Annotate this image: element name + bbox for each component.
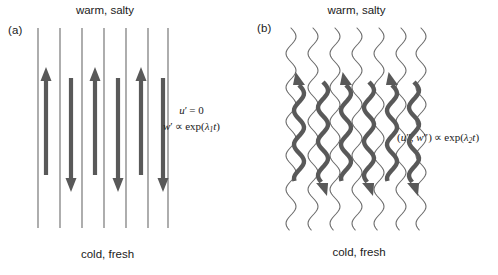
eq-b-exp: exp( (444, 131, 464, 143)
equation-a-line1: u′ = 0 (163, 103, 220, 119)
panel-a-arrow-down-1 (66, 78, 77, 192)
panel-b-wavy-arrow-up-0 (293, 72, 305, 181)
panel-a-arrow-up-2 (90, 67, 101, 175)
panel-b-wavy-line-3 (352, 28, 362, 230)
eq-a-close: ) (216, 120, 220, 132)
panel-a-arrow-up-0 (41, 67, 52, 175)
eq-a-prop: ∝ (175, 120, 183, 132)
panel-b: (b) warm, salty cold, fresh (u″, w″) ∝ e… (249, 0, 498, 275)
panel-a-arrow-up-4 (136, 67, 147, 175)
eq-b-w: w (416, 131, 423, 143)
panel-b-wavy-line-1 (308, 28, 318, 230)
panel-b-wavy-line-0 (286, 28, 296, 230)
eq-b-prop: ∝ (434, 131, 442, 143)
eq-a-exp: exp( (185, 120, 205, 132)
eq-a-w-prime: ′ (170, 120, 172, 132)
panel-b-wavy-arrow-down-1 (316, 82, 328, 196)
panel-b-equations: (u″, w″) ∝ exp(λ2t) (397, 130, 479, 147)
equation-b-line1: (u″, w″) ∝ exp(λ2t) (397, 130, 479, 147)
equation-a-line2: w′ ∝ exp(λ1t) (163, 119, 220, 136)
panel-b-wavy-line-2 (330, 28, 340, 230)
panel-a-equations: u′ = 0 w′ ∝ exp(λ1t) (163, 103, 220, 136)
eq-b-close-paren: ) (428, 131, 432, 143)
panel-b-wavy-line-4 (374, 28, 384, 230)
eq-a-rhs: = 0 (189, 104, 203, 116)
panel-b-wavy-arrow-up-4 (386, 72, 398, 181)
panel-b-wavy-arrow-up-2 (340, 72, 352, 181)
figure-container: (a) warm, salty cold, fresh u′ = 0 w′ ∝ … (0, 0, 498, 275)
panel-a-graphics (0, 0, 249, 275)
eq-b-close: ) (475, 131, 479, 143)
panel-b-wavy-arrow-down-3 (362, 82, 374, 196)
eq-a-u-prime: ′ (185, 104, 187, 116)
panel-a-arrow-down-3 (113, 78, 124, 192)
panel-a: (a) warm, salty cold, fresh u′ = 0 w′ ∝ … (0, 0, 249, 275)
